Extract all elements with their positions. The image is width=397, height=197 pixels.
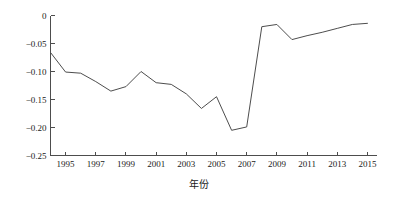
line-chart: 0−0.05−0.10−0.15−0.20−0.25 1995199719992…	[0, 0, 397, 197]
x-tick-label: 1995	[50, 159, 82, 169]
chart-series-lines	[51, 23, 368, 130]
y-tick-label: −0.15	[0, 95, 47, 105]
chart-tick-marks	[51, 16, 368, 156]
x-tick-label: 2011	[291, 159, 323, 169]
x-tick-label: 1999	[110, 159, 142, 169]
y-tick-label: −0.10	[0, 67, 47, 77]
chart-axes	[51, 16, 377, 156]
x-tick-label: 2009	[261, 159, 293, 169]
x-tick-label: 2013	[321, 159, 353, 169]
x-axis-title: 年份	[0, 176, 397, 191]
data-line	[51, 23, 368, 130]
x-tick-label: 2007	[231, 159, 263, 169]
x-tick-label: 2015	[351, 159, 383, 169]
y-tick-label: −0.25	[0, 151, 47, 161]
y-tick-label: −0.05	[0, 39, 47, 49]
x-tick-label: 2005	[201, 159, 233, 169]
y-tick-label: −0.20	[0, 123, 47, 133]
x-tick-label: 1997	[80, 159, 112, 169]
x-tick-label: 2003	[170, 159, 202, 169]
x-tick-label: 2001	[140, 159, 172, 169]
y-tick-label: 0	[0, 11, 47, 21]
